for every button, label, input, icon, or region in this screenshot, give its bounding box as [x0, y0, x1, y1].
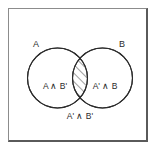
- set-a-label: A: [33, 39, 39, 49]
- set-b-label: B: [119, 39, 125, 49]
- region-label-left-only: A ∧ B': [43, 81, 68, 91]
- venn-diagram-canvas: A B A ∧ B' A' ∧ B A' ∧ B': [0, 0, 157, 155]
- region-label-outside: A' ∧ B': [67, 111, 94, 121]
- venn-diagram-figure: A B A ∧ B' A' ∧ B A' ∧ B': [0, 0, 157, 155]
- region-label-right-only: A' ∧ B: [93, 81, 118, 91]
